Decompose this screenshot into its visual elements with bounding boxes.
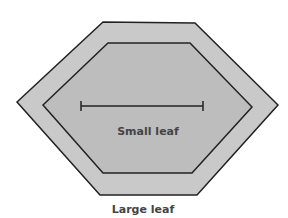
large-leaf-label: Large leaf — [112, 203, 174, 216]
small-leaf-label: Small leaf — [117, 125, 179, 138]
leaf-diagram — [0, 0, 288, 218]
